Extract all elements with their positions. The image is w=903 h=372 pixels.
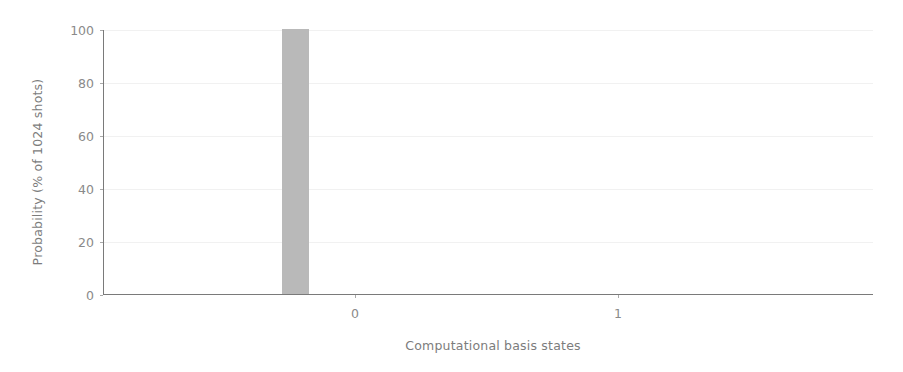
gridline-80 (104, 83, 873, 84)
x-axis-title: Computational basis states (405, 338, 580, 353)
y-tick-label-20: 20 (78, 235, 94, 250)
y-axis-title: Probability (% of 1024 shots) (30, 79, 45, 266)
x-tick-mark-0 (355, 295, 356, 298)
y-tick-mark-0 (100, 295, 103, 296)
y-tick-label-80: 80 (78, 76, 94, 91)
y-tick-mark-40 (100, 189, 103, 190)
x-tick-label-1: 1 (614, 306, 622, 321)
y-tick-label-60: 60 (78, 129, 94, 144)
bar-state-0 (282, 29, 309, 294)
y-tick-mark-20 (100, 242, 103, 243)
plot-area: 100 80 60 40 20 0 0 1 (103, 30, 873, 295)
gridline-60 (104, 136, 873, 137)
y-tick-label-40: 40 (78, 182, 94, 197)
gridline-20 (104, 242, 873, 243)
gridline-40 (104, 189, 873, 190)
gridline-100 (104, 30, 873, 31)
y-tick-mark-100 (100, 30, 103, 31)
y-tick-mark-60 (100, 136, 103, 137)
x-tick-label-0: 0 (351, 306, 359, 321)
histogram-figure: Probability (% of 1024 shots) 100 80 60 … (0, 0, 903, 372)
y-axis-line (103, 30, 104, 295)
x-axis-line (103, 294, 873, 295)
y-tick-label-100: 100 (70, 23, 94, 38)
y-tick-mark-80 (100, 83, 103, 84)
y-tick-label-0: 0 (86, 288, 94, 303)
x-tick-mark-1 (618, 295, 619, 298)
